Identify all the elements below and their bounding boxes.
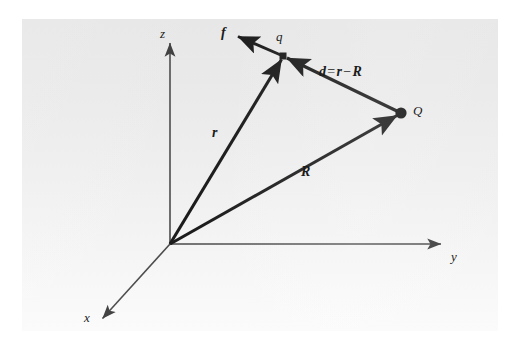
axis-label-x: x [84, 311, 90, 324]
vector-diagram-svg [22, 19, 498, 331]
vector-line-R [170, 116, 397, 245]
point-marker-Q [395, 107, 406, 118]
vector-label-f: f [221, 26, 226, 40]
diagram-panel: z y x q Q r R f d=r−R [22, 19, 498, 331]
figure-root: z y x q Q r R f d=r−R [0, 0, 519, 350]
point-marker-q [280, 53, 287, 60]
vector-label-r: r [212, 126, 217, 140]
equation-term-R-capital: R [352, 64, 362, 79]
equation-label-d: d=r−R [319, 65, 362, 79]
point-label-q: q [276, 30, 283, 43]
vector-line-r [170, 60, 282, 245]
vector-label-R: R [301, 165, 310, 179]
equation-equals-sign: = [326, 64, 336, 79]
equation-minus-sign: − [342, 64, 352, 79]
axes-group [103, 43, 442, 319]
vectors-group [170, 37, 401, 245]
point-label-Q: Q [413, 104, 422, 117]
axis-label-y: y [451, 250, 457, 263]
axis-line-x [103, 244, 171, 319]
axis-label-z: z [160, 27, 165, 40]
